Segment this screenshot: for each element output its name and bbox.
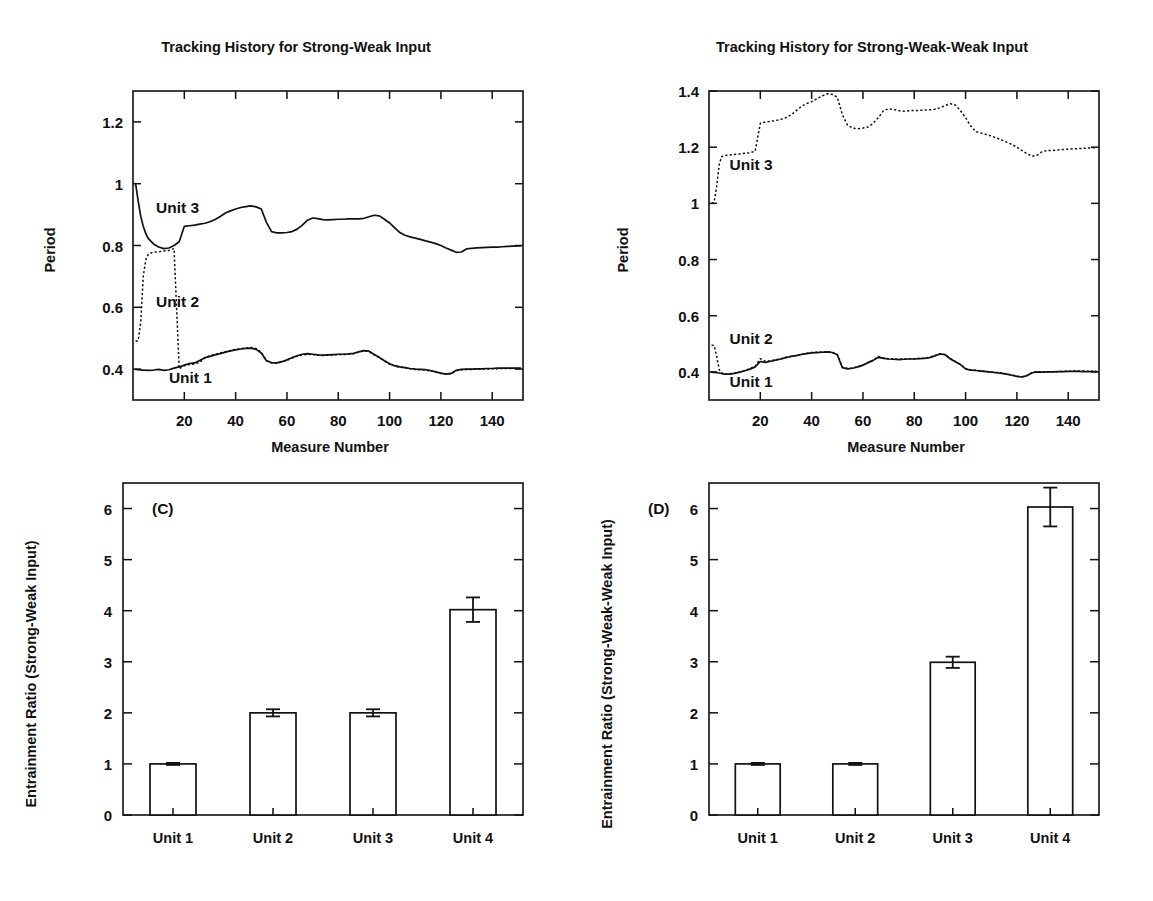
y-tick-label: 0 [104, 807, 112, 824]
category-label: Unit 2 [253, 830, 293, 846]
y-tick-label: 1 [104, 756, 112, 773]
y-tick-label: 6 [690, 501, 698, 518]
x-tick-label: 140 [1056, 412, 1081, 429]
bar-unit-4[interactable] [450, 610, 496, 815]
y-tick-label: 3 [690, 654, 698, 671]
bar-unit-1[interactable] [150, 764, 196, 815]
panel-b-ylabel: Period [615, 227, 631, 272]
category-label: Unit 4 [453, 830, 493, 846]
x-tick-label: 120 [428, 412, 453, 429]
y-tick-label: 3 [104, 654, 112, 671]
x-tick-label: 40 [227, 412, 244, 429]
series-annotation: Unit 2 [156, 293, 199, 310]
y-tick-label: 1.4 [678, 83, 700, 100]
figure-canvas: Tracking History for Strong-Weak Input P… [0, 0, 1153, 901]
y-tick-label: 1 [115, 176, 123, 193]
category-label: Unit 3 [933, 830, 973, 846]
series-annotation: Unit 3 [156, 199, 199, 216]
x-tick-label: 20 [176, 412, 193, 429]
category-label: Unit 1 [153, 830, 193, 846]
y-tick-label: 0.4 [678, 364, 700, 381]
bar-unit-2[interactable] [833, 764, 878, 815]
bar-unit-1[interactable] [735, 764, 780, 815]
panel-a-svg: Tracking History for Strong-Weak Input P… [0, 0, 577, 455]
series-unit-3 [712, 94, 1097, 204]
series-annotation: Unit 1 [730, 373, 773, 390]
panel-a-plot-area: 0.40.60.811.220406080100120140Unit 3Unit… [102, 91, 523, 429]
y-tick-label: 1 [691, 195, 699, 212]
panel-a-ylabel: Period [42, 227, 58, 272]
y-tick-label: 6 [104, 501, 112, 518]
y-tick-label: 5 [690, 552, 698, 569]
x-tick-label: 60 [279, 412, 296, 429]
x-tick-label: 60 [855, 412, 872, 429]
panel-d-bar-chart: Entrainment Ratio (Strong-Weak-Weak Inpu… [576, 448, 1153, 901]
bar-unit-4[interactable] [1028, 507, 1073, 815]
panel-c-bar-chart: Entrainment Ratio (Strong-Weak Input) (C… [0, 448, 577, 901]
bar-unit-2[interactable] [250, 713, 296, 815]
series-unit-3 [136, 184, 521, 253]
y-tick-label: 4 [104, 603, 113, 620]
category-label: Unit 2 [835, 830, 875, 846]
x-tick-label: 80 [906, 412, 923, 429]
series-annotation: Unit 3 [730, 156, 773, 173]
y-tick-label: 1 [690, 756, 698, 773]
panel-b-line-chart: Tracking History for Strong-Weak-Weak In… [576, 0, 1153, 455]
plot-frame [133, 91, 523, 400]
x-tick-label: 100 [953, 412, 978, 429]
category-label: Unit 4 [1030, 830, 1070, 846]
panel-b-svg: Tracking History for Strong-Weak-Weak In… [576, 0, 1153, 455]
x-tick-label: 100 [377, 412, 402, 429]
panel-d-tag: (D) [648, 500, 670, 517]
y-tick-label: 0 [690, 807, 698, 824]
x-tick-label: 140 [480, 412, 505, 429]
bar-unit-3[interactable] [350, 713, 396, 815]
y-tick-label: 0.4 [102, 361, 124, 378]
panel-c-ylabel: Entrainment Ratio (Strong-Weak Input) [23, 540, 39, 807]
y-tick-label: 5 [104, 552, 112, 569]
y-tick-label: 0.6 [102, 299, 123, 316]
panel-c-svg: Entrainment Ratio (Strong-Weak Input) (C… [0, 448, 577, 901]
y-tick-label: 0.8 [678, 252, 699, 269]
panel-c-plot-area: 0123456Unit 1Unit 2Unit 3Unit 4 [104, 483, 523, 846]
bar-unit-3[interactable] [930, 662, 975, 815]
category-label: Unit 1 [738, 830, 778, 846]
y-tick-label: 0.6 [678, 308, 699, 325]
y-tick-label: 1.2 [102, 114, 123, 131]
x-tick-label: 120 [1004, 412, 1029, 429]
panel-d-plot-area: 0123456Unit 1Unit 2Unit 3Unit 4 [690, 483, 1099, 846]
x-tick-label: 20 [752, 412, 769, 429]
x-tick-label: 40 [803, 412, 820, 429]
panel-b-plot-area: 0.40.60.811.21.420406080100120140Unit 3U… [678, 83, 1099, 429]
category-label: Unit 3 [353, 830, 393, 846]
panel-a-line-chart: Tracking History for Strong-Weak Input P… [0, 0, 577, 455]
panel-c-tag: (C) [152, 500, 174, 517]
y-tick-label: 2 [104, 705, 112, 722]
panel-d-svg: Entrainment Ratio (Strong-Weak-Weak Inpu… [576, 448, 1153, 901]
y-tick-label: 1.2 [678, 139, 699, 156]
y-tick-label: 0.8 [102, 238, 123, 255]
panel-d-ylabel: Entrainment Ratio (Strong-Weak-Weak Inpu… [599, 519, 615, 829]
plot-frame [709, 91, 1099, 400]
y-tick-label: 4 [690, 603, 699, 620]
series-annotation: Unit 2 [730, 330, 773, 347]
panel-a-title: Tracking History for Strong-Weak Input [161, 39, 431, 55]
panel-b-title: Tracking History for Strong-Weak-Weak In… [716, 39, 1028, 55]
series-annotation: Unit 1 [169, 369, 212, 386]
x-tick-label: 80 [330, 412, 347, 429]
y-tick-label: 2 [690, 705, 698, 722]
